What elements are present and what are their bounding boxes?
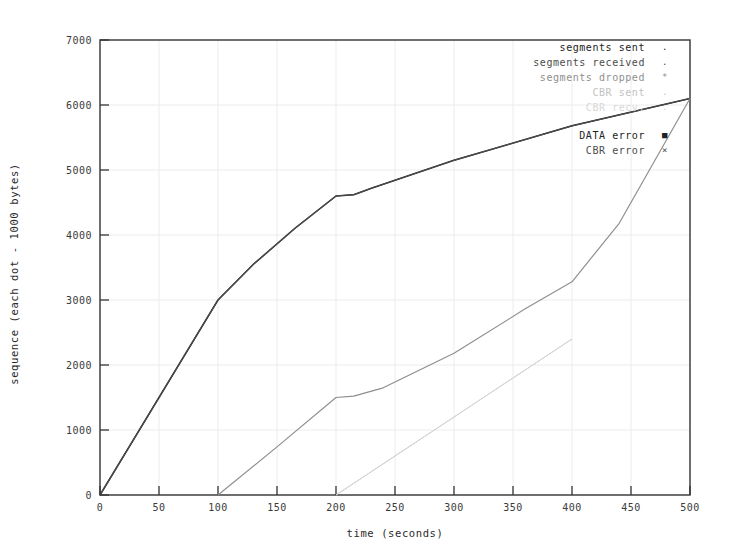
legend-marker-icon: .: [645, 43, 685, 52]
legend-marker-icon: .: [645, 103, 685, 112]
legend-label: DATA error: [579, 130, 645, 141]
x-tick-marks: [100, 486, 690, 495]
x-tick-label: 200: [326, 502, 346, 513]
legend-marker-icon: *: [645, 73, 685, 82]
x-tick-label: 50: [152, 502, 165, 513]
x-tick-label: 250: [385, 502, 405, 513]
x-tick-label: 400: [562, 502, 582, 513]
y-tick-label: 1000: [44, 425, 92, 436]
x-tick-label: 300: [444, 502, 464, 513]
y-tick-label: 7000: [44, 35, 92, 46]
y-tick-label: 2000: [44, 360, 92, 371]
y-tick-label: 6000: [44, 100, 92, 111]
legend-label: segments sent: [560, 42, 645, 53]
y-tick-label: 4000: [44, 230, 92, 241]
x-tick-label: 350: [503, 502, 523, 513]
legend-label: segments received: [533, 57, 645, 68]
legend-item: segments received.: [430, 55, 685, 70]
x-tick-label: 100: [208, 502, 228, 513]
chart-container: 01000200030004000500060007000 0501001502…: [0, 0, 737, 555]
legend-marker-icon: ■: [645, 131, 685, 140]
legend-label: segments dropped: [540, 72, 645, 83]
y-tick-label: 3000: [44, 295, 92, 306]
x-tick-label: 500: [680, 502, 700, 513]
legend-marker-icon: .: [645, 88, 685, 97]
y-axis-title: sequence (each dot - 1000 bytes): [8, 163, 20, 385]
y-tick-label: 0: [44, 490, 92, 501]
x-tick-label: 150: [267, 502, 287, 513]
y-tick-label: 5000: [44, 165, 92, 176]
legend-label: CBR error: [586, 145, 645, 156]
legend-item: CBR recv..: [430, 100, 685, 115]
chart-legend: segments sent.segments received.segments…: [430, 40, 685, 158]
legend-spacer: [430, 115, 685, 128]
x-tick-label: 450: [621, 502, 641, 513]
x-axis-title: time (seconds): [347, 527, 444, 539]
legend-item: CBR sent.: [430, 85, 685, 100]
legend-item: segments sent.: [430, 40, 685, 55]
legend-item: CBR error×: [430, 143, 685, 158]
y-tick-marks: [100, 40, 109, 495]
legend-item: segments dropped*: [430, 70, 685, 85]
legend-label: CBR recv.: [586, 102, 645, 113]
x-tick-label: 0: [97, 502, 104, 513]
legend-marker-icon: .: [645, 58, 685, 67]
legend-label: CBR sent: [592, 87, 645, 98]
legend-item: DATA error■: [430, 128, 685, 143]
legend-marker-icon: ×: [645, 146, 685, 155]
